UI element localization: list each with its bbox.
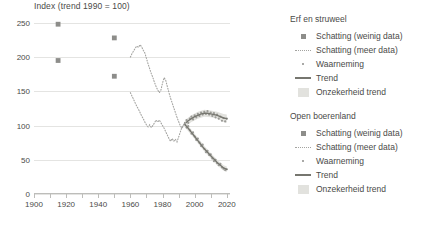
x-axis-tick-mark xyxy=(163,194,164,198)
x-axis-tick-mark xyxy=(146,194,147,198)
legend-dot-icon xyxy=(302,160,305,163)
legend-group-heading: Open boerenland xyxy=(290,111,432,121)
legend-key xyxy=(290,34,316,39)
legend-key xyxy=(290,174,316,176)
legend-item[interactable]: Schatting (weinig data) xyxy=(290,126,432,140)
legend-item[interactable]: Schatting (weinig data) xyxy=(290,29,432,43)
series-group xyxy=(56,22,228,128)
legend-item[interactable]: Trend xyxy=(290,168,432,182)
legend-solid-line-icon xyxy=(295,174,311,176)
observation-point xyxy=(214,116,216,118)
legend-key xyxy=(290,147,316,148)
legend-item-label: Waarneming xyxy=(316,156,364,166)
y-axis-tick-label: 150 xyxy=(17,87,30,96)
estimate-square-marker xyxy=(56,22,61,27)
x-axis-tick-mark xyxy=(130,194,131,198)
x-axis-tick-label: 1920 xyxy=(57,200,75,209)
legend-item[interactable]: Schatting (meer data) xyxy=(290,43,432,57)
x-axis-tick-label: 2020 xyxy=(218,200,236,209)
estimate-square-marker xyxy=(112,36,117,41)
gridline xyxy=(34,194,230,195)
legend-item[interactable]: Waarneming xyxy=(290,57,432,71)
series-layer xyxy=(34,16,230,194)
legend-key xyxy=(290,77,316,79)
chart-title: Index (trend 1990 = 100) xyxy=(34,1,130,11)
legend-key xyxy=(290,160,316,163)
legend-group: Open boerenlandSchatting (weinig data)Sc… xyxy=(290,111,432,196)
legend-key xyxy=(290,185,316,194)
legend-key xyxy=(290,63,316,66)
x-axis-tick-mark xyxy=(82,194,83,198)
x-axis-tick-label: 1980 xyxy=(154,200,172,209)
legend-key xyxy=(290,50,316,51)
y-axis-tick-label: 200 xyxy=(17,53,30,62)
y-axis-tick-label: 250 xyxy=(17,18,30,27)
y-axis-tick-label: 0 xyxy=(26,190,30,199)
legend-group-heading: Erf en struweel xyxy=(290,14,432,24)
legend-item-label: Schatting (weinig data) xyxy=(316,128,402,138)
observation-point xyxy=(211,115,213,117)
x-axis-tick-mark xyxy=(50,194,51,198)
legend-solid-line-icon xyxy=(295,77,311,79)
legend-item[interactable]: Waarneming xyxy=(290,154,432,168)
legend-band-icon xyxy=(298,88,309,97)
x-axis-tick-label: 1900 xyxy=(25,200,43,209)
x-axis-tick-mark xyxy=(66,194,67,198)
x-axis-tick-mark xyxy=(179,194,180,198)
legend-square-icon xyxy=(301,34,306,39)
x-axis-tick-mark xyxy=(34,194,35,198)
legend-item[interactable]: Onzekerheid trend xyxy=(290,182,432,196)
legend-group: Erf en struweelSchatting (weinig data)Sc… xyxy=(290,14,432,99)
x-axis-tick-mark xyxy=(98,194,99,198)
legend-square-icon xyxy=(301,131,306,136)
legend-dot-icon xyxy=(302,63,305,66)
x-axis-tick-mark xyxy=(114,194,115,198)
legend-dotted-line-icon xyxy=(295,50,311,51)
x-axis-tick-label: 2000 xyxy=(186,200,204,209)
legend-item-label: Waarneming xyxy=(316,59,364,69)
estimate-square-marker xyxy=(112,74,117,79)
x-axis-tick-label: 1940 xyxy=(89,200,107,209)
x-axis-tick-mark xyxy=(227,194,228,198)
plot-area: 050100150200250 190019201940196019802000… xyxy=(34,16,230,194)
legend-band-icon xyxy=(298,185,309,194)
legend-dotted-line-icon xyxy=(295,147,311,148)
chart-container: Index (trend 1990 = 100) 050100150200250… xyxy=(0,0,432,232)
x-axis-tick-mark xyxy=(195,194,196,198)
observation-point xyxy=(206,110,208,112)
legend-item[interactable]: Trend xyxy=(290,71,432,85)
legend-key xyxy=(290,88,316,97)
legend-item[interactable]: Onzekerheid trend xyxy=(290,85,432,99)
observation-point xyxy=(218,118,220,120)
legend-item-label: Schatting (meer data) xyxy=(316,45,398,55)
legend-key xyxy=(290,131,316,136)
x-axis-tick-label: 1960 xyxy=(121,200,139,209)
y-axis-tick-label: 50 xyxy=(21,155,30,164)
legend-item[interactable]: Schatting (meer data) xyxy=(290,140,432,154)
observation-point xyxy=(224,120,226,122)
estimate-dotted-line xyxy=(130,45,185,129)
legend-item-label: Onzekerheid trend xyxy=(316,184,386,194)
legend-item-label: Onzekerheid trend xyxy=(316,87,386,97)
x-axis-tick-mark xyxy=(211,194,212,198)
legend-item-label: Schatting (weinig data) xyxy=(316,31,402,41)
legend-item-label: Schatting (meer data) xyxy=(316,142,398,152)
chart-legend: Erf en struweelSchatting (weinig data)Sc… xyxy=(290,14,432,196)
y-axis-tick-label: 100 xyxy=(17,121,30,130)
observation-point xyxy=(221,120,223,122)
estimate-square-marker xyxy=(56,58,61,63)
legend-item-label: Trend xyxy=(316,73,338,83)
legend-item-label: Trend xyxy=(316,170,338,180)
